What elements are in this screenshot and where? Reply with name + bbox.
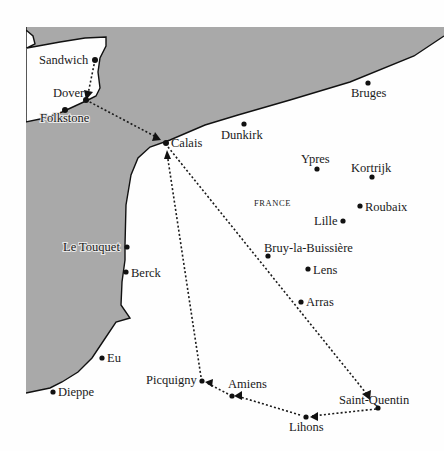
label-lihons: Lihons [289,420,324,434]
label-lens: Lens [313,263,337,277]
arrow-icon [205,379,213,387]
label-dieppe: Dieppe [58,385,95,399]
label-calais: Calais [171,136,202,150]
label-dunkirk: Dunkirk [221,128,263,142]
label-sandwich: Sandwich [39,53,89,67]
label-kortrijk: Kortrijk [351,161,392,175]
label-arras: Arras [306,295,334,309]
label-folkstone: Folkstone [40,111,90,125]
label-bruges: Bruges [351,86,387,100]
label-picquigny: Picquigny [146,373,197,387]
arrow-icon [164,150,171,159]
label-saint-quentin: Saint-Quentin [339,393,410,407]
label-roubaix: Roubaix [365,200,408,214]
label-eu: Eu [107,351,122,365]
label-france-region: FRANCE [254,198,291,208]
arrow-icon [234,391,242,400]
label-bruy-la-buissiere: Bruy-la-Buissière [264,241,353,255]
label-lille: Lille [314,214,338,228]
label-ypres: Ypres [301,152,330,166]
map-canvas: Sandwich Dover Folkstone Calais Dunkirk … [0,0,444,451]
label-amiens: Amiens [228,377,267,391]
label-le-touquet: Le Touquet [63,240,120,254]
map: Sandwich Dover Folkstone Calais Dunkirk … [0,0,444,451]
label-berck: Berck [131,266,162,280]
label-dover: Dover [53,86,85,100]
